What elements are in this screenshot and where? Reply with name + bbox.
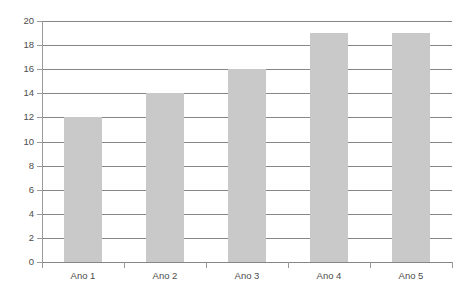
x-axis-line [42, 262, 453, 263]
bar-chart: 02468101214161820 Ano 1Ano 2Ano 3Ano 4An… [0, 0, 472, 298]
x-axis-tick [42, 262, 43, 268]
gridline [42, 45, 452, 46]
plot-area [42, 21, 452, 262]
x-axis-tick [370, 262, 371, 268]
y-axis-line [42, 21, 43, 263]
y-axis-tick-label: 0 [0, 257, 34, 267]
x-axis-tick-label: Ano 1 [42, 271, 124, 281]
y-axis-tick-label: 2 [0, 233, 34, 243]
bar [228, 69, 266, 262]
x-axis-tick [288, 262, 289, 268]
y-axis-tick-label: 6 [0, 185, 34, 195]
y-axis-tick-label: 10 [0, 137, 34, 147]
x-axis-tick-label: Ano 5 [370, 271, 452, 281]
y-axis-tick-label: 18 [0, 40, 34, 50]
bar [310, 33, 348, 262]
y-axis-tick-label: 8 [0, 161, 34, 171]
x-axis-tick-label: Ano 4 [288, 271, 370, 281]
y-axis-tick-label: 20 [0, 16, 34, 26]
y-axis-tick-label: 12 [0, 112, 34, 122]
bar [146, 93, 184, 262]
y-axis-tick-label: 16 [0, 64, 34, 74]
bar [392, 33, 430, 262]
bar [64, 117, 102, 262]
y-axis-tick-label: 14 [0, 88, 34, 98]
x-axis-tick [124, 262, 125, 268]
gridline [42, 21, 452, 22]
y-axis-tick-labels: 02468101214161820 [0, 0, 34, 298]
x-axis-tick [452, 262, 453, 268]
x-axis-tick-label: Ano 2 [124, 271, 206, 281]
x-axis-tick-label: Ano 3 [206, 271, 288, 281]
y-axis-tick-label: 4 [0, 209, 34, 219]
x-axis-tick [206, 262, 207, 268]
